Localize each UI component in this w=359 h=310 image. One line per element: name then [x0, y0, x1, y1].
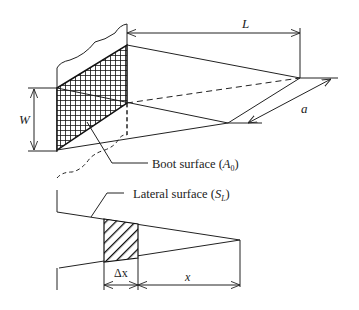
boot-surface-label: Boot surface (A0) [152, 157, 239, 173]
label-L: L [241, 16, 249, 31]
lateral-surface-label: Lateral surface (SL) [133, 187, 230, 203]
label-W: W [19, 112, 31, 127]
label-x: x [184, 270, 191, 284]
label-a: a [301, 101, 308, 116]
bottom-figure [57, 190, 240, 290]
diagram-canvas: L W a Boot surface (A0) Lateral surface … [0, 0, 359, 310]
lateral-element-hatch [104, 219, 138, 262]
fin-geometry-diagram: L W a Boot surface (A0) Lateral surface … [0, 0, 359, 310]
top-figure [28, 24, 338, 178]
label-delta-x: Δx [114, 266, 128, 280]
